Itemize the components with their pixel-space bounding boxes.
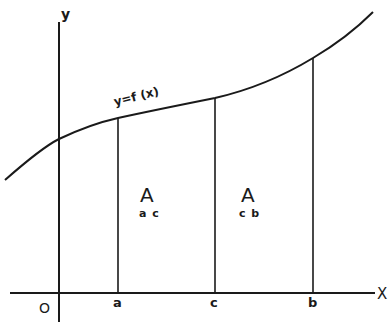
point-label-a: a: [113, 295, 122, 310]
region-label-cb-sub: c b: [239, 207, 260, 220]
curve-label: y=f (x): [112, 84, 160, 109]
curve-f-of-x: [5, 12, 373, 180]
region-label-ac-main: A: [140, 183, 154, 207]
y-axis-label: y: [61, 6, 70, 22]
diagram-canvas: y X O a c b y=f (x) A a c A c b: [0, 0, 392, 322]
point-label-b: b: [308, 295, 317, 310]
x-axis-label: X: [377, 285, 387, 303]
region-label-cb-main: A: [241, 183, 255, 207]
origin-label: O: [39, 300, 50, 316]
region-label-ac-sub: a c: [139, 207, 160, 220]
point-label-c: c: [210, 295, 218, 310]
